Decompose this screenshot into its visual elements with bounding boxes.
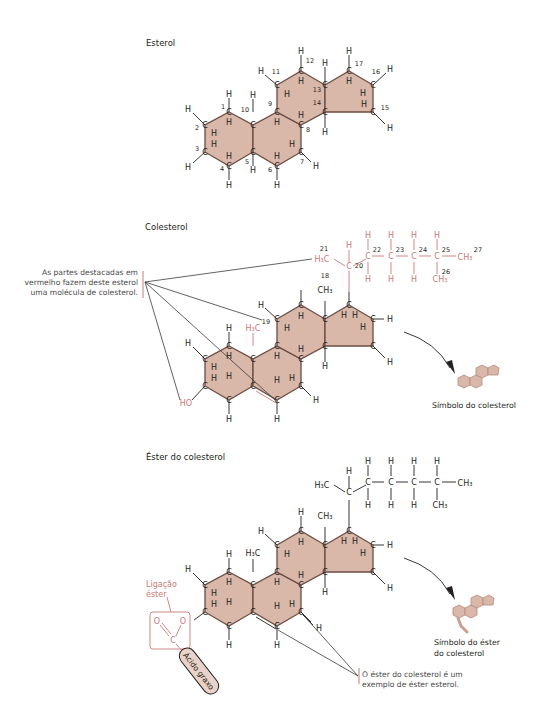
svg-text:C: C: [202, 581, 208, 590]
svg-text:H: H: [274, 415, 280, 424]
svg-text:CH₃: CH₃: [318, 512, 333, 521]
svg-text:H: H: [387, 124, 393, 133]
svg-text:H: H: [298, 77, 304, 86]
svg-text:H: H: [226, 152, 232, 161]
svg-text:H: H: [346, 241, 352, 250]
svg-text:C: C: [202, 355, 208, 364]
svg-text:C: C: [298, 581, 304, 590]
svg-text:H: H: [226, 641, 232, 650]
svg-text:H: H: [298, 345, 304, 354]
svg-text:H: H: [226, 118, 232, 127]
ester-symbol-icon: [453, 595, 494, 632]
svg-text:H: H: [360, 549, 366, 558]
svg-text:C: C: [322, 568, 328, 577]
svg-text:H: H: [388, 231, 394, 240]
svg-text:C: C: [202, 121, 208, 130]
svg-text:H: H: [298, 111, 304, 120]
svg-text:Ácido graxo: Ácido graxo: [181, 650, 217, 692]
svg-text:H: H: [250, 91, 256, 100]
svg-text:H: H: [211, 374, 217, 383]
svg-text:C: C: [346, 301, 352, 310]
svg-text:H: H: [289, 600, 295, 609]
svg-text:H: H: [274, 578, 280, 587]
svg-text:H: H: [226, 90, 232, 99]
svg-text:H: H: [211, 129, 217, 138]
svg-text:H: H: [226, 578, 232, 587]
svg-text:H: H: [316, 624, 322, 633]
svg-text:10: 10: [241, 106, 249, 114]
svg-text:H: H: [352, 537, 358, 546]
svg-text:7: 7: [300, 158, 304, 166]
svg-text:H: H: [185, 105, 191, 114]
svg-text:22: 22: [373, 246, 381, 254]
svg-text:C: C: [226, 396, 232, 405]
svg-text:18: 18: [321, 272, 329, 280]
svg-text:H: H: [365, 275, 371, 284]
svg-text:C: C: [250, 355, 256, 364]
svg-text:H: H: [352, 311, 358, 320]
svg-text:H: H: [298, 538, 304, 547]
svg-text:C: C: [322, 342, 328, 351]
cholesterol-ester-structure: CC CC CC CC CC CC CC CC C CH₃ H₃C H₃C CH…: [150, 457, 494, 698]
svg-text:C: C: [365, 478, 371, 487]
svg-text:H: H: [341, 537, 347, 546]
svg-text:C: C: [226, 342, 232, 351]
svg-text:4: 4: [220, 165, 224, 173]
svg-text:C: C: [298, 527, 304, 536]
svg-text:24: 24: [419, 246, 427, 254]
svg-text:H: H: [365, 231, 371, 240]
svg-text:C: C: [226, 108, 232, 117]
svg-text:C: C: [274, 396, 280, 405]
svg-text:C: C: [170, 636, 176, 645]
svg-text:H: H: [360, 89, 366, 98]
svg-text:H: H: [411, 275, 417, 284]
svg-text:17: 17: [355, 60, 363, 68]
svg-text:H: H: [274, 602, 280, 611]
svg-text:H: H: [434, 457, 440, 466]
svg-text:H: H: [365, 457, 371, 466]
svg-text:H: H: [388, 275, 394, 284]
svg-text:H: H: [322, 59, 328, 68]
svg-text:C: C: [322, 81, 328, 90]
svg-text:21: 21: [320, 245, 328, 253]
svg-text:H: H: [365, 501, 371, 510]
cholesterol-symbol-icon: [458, 365, 499, 388]
svg-text:C: C: [298, 67, 304, 76]
svg-text:C: C: [298, 608, 304, 617]
svg-text:C: C: [298, 148, 304, 157]
svg-text:C: C: [274, 162, 280, 171]
molecule-diagrams: CC CC CC CC CC CC CC CC C HH HH HH HH HH…: [0, 0, 543, 706]
svg-text:C: C: [202, 148, 208, 157]
svg-text:C: C: [322, 315, 328, 324]
svg-text:C: C: [250, 608, 256, 617]
svg-text:CH₃: CH₃: [458, 479, 473, 488]
svg-text:H: H: [211, 600, 217, 609]
svg-text:C: C: [274, 81, 280, 90]
svg-text:C: C: [322, 108, 328, 117]
svg-text:H: H: [387, 584, 393, 593]
svg-text:C: C: [388, 478, 394, 487]
svg-text:16: 16: [372, 68, 380, 76]
svg-text:C: C: [370, 541, 376, 550]
svg-text:C: C: [274, 568, 280, 577]
svg-text:H: H: [322, 588, 328, 597]
svg-text:H: H: [313, 396, 319, 405]
svg-text:15: 15: [381, 104, 389, 112]
svg-text:25: 25: [442, 246, 450, 254]
svg-text:H: H: [411, 457, 417, 466]
svg-text:C: C: [370, 108, 376, 117]
svg-text:H: H: [274, 352, 280, 361]
svg-text:H: H: [346, 77, 352, 86]
svg-text:5: 5: [245, 158, 249, 166]
svg-text:C: C: [411, 478, 417, 487]
svg-text:H: H: [258, 67, 264, 76]
cholesterol-structure: CC CC CC CC CC CC CC CC C CH₃ HH HH HH H…: [143, 231, 499, 424]
svg-text:C: C: [370, 568, 376, 577]
svg-text:O: O: [154, 617, 160, 626]
svg-text:C: C: [250, 382, 256, 391]
svg-text:C: C: [250, 148, 256, 157]
svg-text:H: H: [434, 231, 440, 240]
svg-text:H: H: [289, 374, 295, 383]
svg-text:H: H: [361, 100, 367, 109]
svg-text:H: H: [274, 152, 280, 161]
